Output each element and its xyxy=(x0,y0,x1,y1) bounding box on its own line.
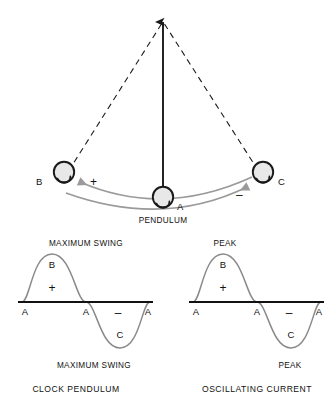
pendulum-string-left-dashed xyxy=(73,24,162,164)
pendulum-string-right-dashed xyxy=(165,24,255,164)
wave-right-bottom-label: PEAK xyxy=(278,361,301,370)
wave-right-zero-label-3: A xyxy=(316,306,323,317)
pendulum-label-b: B xyxy=(36,176,42,187)
pendulum-bob-b xyxy=(54,162,74,183)
wave-left-zero-label-2: A xyxy=(83,306,90,317)
wave-left-top-label: MAXIMUM SWING xyxy=(49,239,123,248)
wave-left-crest-label: B xyxy=(49,259,55,270)
wave-left-trough-label: C xyxy=(117,329,124,340)
bob-c-circle xyxy=(253,162,273,182)
pendulum-label-a: A xyxy=(177,201,184,212)
pendulum-minus-sign: – xyxy=(236,188,243,202)
pendulum-caption: PENDULUM xyxy=(139,216,188,225)
pendulum-bob-c xyxy=(253,162,273,183)
wave-left-caption: CLOCK PENDULUM xyxy=(32,384,119,394)
wave-left-zero-label-1: A xyxy=(22,306,29,317)
wave-right-trough-label: C xyxy=(288,329,295,340)
pendulum-plus-sign: + xyxy=(90,175,97,189)
figure-root: B A C + – PENDULUM MAXIMUM SWING xyxy=(0,0,329,402)
wave-right-plus-sign: + xyxy=(219,281,226,295)
wave-right-zero-label-1: A xyxy=(193,306,200,317)
bob-a-circle xyxy=(153,187,173,207)
pendulum-scene: B A C + – PENDULUM xyxy=(36,22,285,225)
wave-right-minus-sign: – xyxy=(286,306,293,320)
pendulum-label-c: C xyxy=(278,176,285,187)
wave-clock-pendulum: MAXIMUM SWING B C + – A A A MAXIMUM SWIN… xyxy=(18,239,153,394)
bob-b-circle xyxy=(54,162,74,182)
wave-right-crest-label: B xyxy=(220,259,226,270)
diagram-canvas: B A C + – PENDULUM MAXIMUM SWING xyxy=(0,0,329,402)
pendulum-bob-a xyxy=(153,187,173,208)
wave-left-zero-label-3: A xyxy=(145,306,152,317)
wave-left-plus-sign: + xyxy=(48,281,55,295)
wave-left-bottom-label: MAXIMUM SWING xyxy=(57,361,131,370)
wave-right-zero-label-2: A xyxy=(254,306,261,317)
wave-right-caption: OSCILLATING CURRENT xyxy=(202,384,312,394)
wave-oscillating-current: PEAK B C + – A A A PEAK OSCILLATING CURR… xyxy=(189,239,324,394)
wave-right-top-label: PEAK xyxy=(213,239,236,248)
wave-left-minus-sign: – xyxy=(115,306,122,320)
